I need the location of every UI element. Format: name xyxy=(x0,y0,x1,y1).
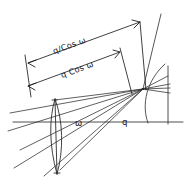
oblique-construction-line xyxy=(143,14,161,89)
optics-diagram-figure: q/Cos ω q Cos ω ω q xyxy=(0,0,187,189)
arrowhead-left-upper xyxy=(28,60,36,67)
diagram-canvas: q/Cos ω q Cos ω ω q xyxy=(0,0,187,189)
dimension-left-extension xyxy=(25,55,31,97)
marginal-ray-top xyxy=(55,89,143,100)
label-q-distance: q xyxy=(122,117,127,127)
dimension-right-extension xyxy=(120,48,132,94)
label-omega-angle: ω xyxy=(75,118,82,128)
dimension-outer-right-extension xyxy=(140,22,146,90)
label-q-over-cos-omega: q/Cos ω xyxy=(51,35,87,56)
marginal-ray-bottom xyxy=(60,89,143,170)
chief-ray xyxy=(44,89,143,176)
label-q-cos-omega: q Cos ω xyxy=(59,59,95,80)
arrowhead-right-upper xyxy=(132,20,140,28)
lens-optical-axis-edge xyxy=(55,99,57,174)
curved-field-arc xyxy=(145,64,165,123)
